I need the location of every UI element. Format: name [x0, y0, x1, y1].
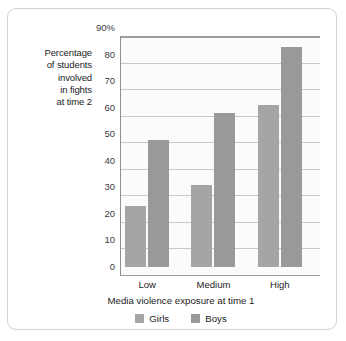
bar-boys-medium[interactable] [214, 113, 235, 267]
x-tick-label-high: High [245, 279, 315, 290]
chart-legend: Girls Boys [8, 313, 337, 324]
bar-girls-high[interactable] [258, 105, 279, 267]
y-axis-title-line-2: of students [16, 59, 92, 71]
y-tick-label-0: 0 [81, 261, 115, 272]
y-tick-label-70: 70 [81, 75, 115, 86]
legend-label-girls: Girls [149, 313, 169, 324]
legend-swatch-boys-icon [191, 314, 200, 323]
x-tick-label-medium: Medium [179, 279, 249, 290]
x-tick-label-low: Low [112, 279, 182, 290]
bar-boys-high[interactable] [281, 47, 302, 267]
y-tick-label-80: 80 [81, 49, 115, 60]
legend-swatch-girls-icon [135, 314, 144, 323]
x-axis-title: Media violence exposure at time 1 [8, 295, 337, 306]
y-tick-label-40: 40 [81, 155, 115, 166]
legend-item-boys[interactable]: Boys [191, 313, 227, 324]
chart-card: Percentage of students involved in fight… [7, 8, 337, 330]
bar-girls-low[interactable] [125, 206, 146, 267]
gridline-0 [121, 275, 320, 276]
y-tick-label-90: 90% [81, 22, 115, 33]
legend-label-boys: Boys [205, 313, 227, 324]
bar-boys-low[interactable] [148, 140, 169, 267]
gridline-90 [121, 36, 320, 38]
y-tick-label-10: 10 [81, 234, 115, 245]
y-tick-label-20: 20 [81, 208, 115, 219]
bar-girls-medium[interactable] [191, 185, 212, 267]
y-tick-label-30: 30 [81, 181, 115, 192]
y-tick-label-60: 60 [81, 102, 115, 113]
y-tick-label-50: 50 [81, 128, 115, 139]
legend-item-girls[interactable]: Girls [135, 313, 169, 324]
